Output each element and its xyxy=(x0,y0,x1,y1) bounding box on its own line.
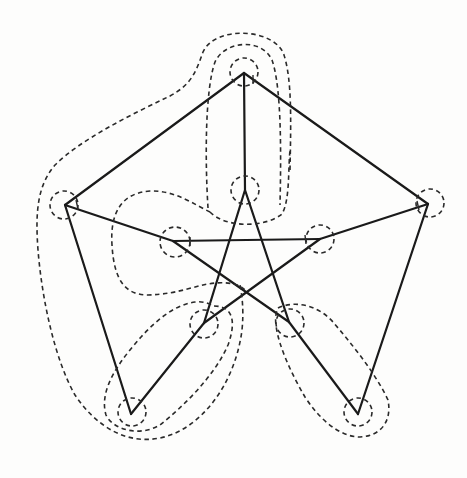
petersen-graph-diagram xyxy=(0,0,467,478)
edge-T-L xyxy=(65,73,244,205)
edge-L-BL xyxy=(65,205,131,414)
star-iT-iBR xyxy=(245,190,289,322)
contour-left-lobe xyxy=(112,191,245,295)
vertex-circle-R xyxy=(416,189,444,217)
edge-T-R xyxy=(244,73,428,204)
spoke-BR xyxy=(289,322,358,414)
star-iR-iBL xyxy=(204,239,320,323)
star-iL-iBR xyxy=(173,241,289,322)
tick-mark xyxy=(305,235,306,244)
contour-top-mid-u xyxy=(210,150,290,224)
star-iL-iR xyxy=(173,239,320,241)
spoke-T xyxy=(244,73,245,190)
tick-mark xyxy=(417,201,419,210)
diagram-canvas xyxy=(0,0,467,478)
dashed-contours xyxy=(37,33,444,439)
spoke-L xyxy=(65,205,173,241)
edge-R-BR xyxy=(358,204,428,414)
contour-bottom-right-loop xyxy=(276,304,389,437)
spoke-R xyxy=(320,204,428,239)
star-iT-iBL xyxy=(204,190,245,323)
